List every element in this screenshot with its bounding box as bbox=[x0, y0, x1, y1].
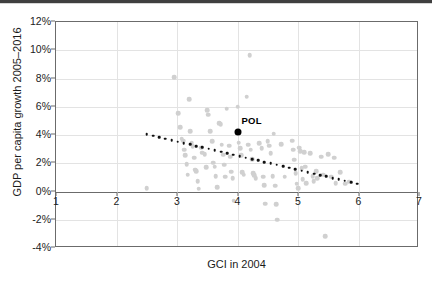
x-tick-label: 1 bbox=[53, 195, 59, 207]
trendline-dot bbox=[356, 182, 359, 185]
scatter-point bbox=[194, 169, 199, 174]
gridline-horizontal bbox=[56, 220, 417, 221]
scatter-point bbox=[262, 183, 267, 188]
scatter-point bbox=[282, 174, 287, 179]
scatter-point bbox=[267, 143, 272, 148]
scatter-point bbox=[273, 184, 278, 189]
trendline-dot bbox=[245, 156, 248, 159]
scatter-point bbox=[206, 112, 211, 117]
scatter-point bbox=[241, 172, 246, 177]
trendline-dot bbox=[263, 161, 266, 164]
trendline-dot bbox=[275, 164, 278, 167]
y-tick-label: -4% bbox=[32, 241, 51, 253]
highlight-label-pol: POL bbox=[242, 115, 262, 126]
scatter-point bbox=[204, 165, 209, 170]
scatter-point bbox=[222, 162, 227, 167]
x-tick-label: 7 bbox=[416, 195, 422, 207]
trendline-dot bbox=[325, 175, 328, 178]
scatter-point bbox=[182, 148, 187, 153]
scatter-point bbox=[236, 140, 241, 145]
scatter-point bbox=[238, 146, 243, 151]
trendline-dot bbox=[170, 139, 173, 142]
y-tick-label: 6% bbox=[36, 100, 51, 112]
scatter-point bbox=[203, 152, 208, 157]
y-tick-label: 2% bbox=[36, 156, 51, 168]
scatter-point bbox=[218, 122, 223, 127]
scatter-point bbox=[268, 151, 273, 156]
scatter-point bbox=[186, 172, 191, 177]
scatter-point bbox=[308, 151, 313, 156]
scatter-point bbox=[144, 186, 149, 191]
x-tick-label: 4 bbox=[235, 195, 241, 207]
scatter-point bbox=[192, 155, 197, 160]
x-tick-mark bbox=[116, 192, 117, 196]
scatter-point bbox=[187, 97, 192, 102]
trendline-dot bbox=[300, 169, 303, 172]
scatter-point bbox=[227, 143, 232, 148]
scatter-point bbox=[315, 176, 320, 181]
scatter-point bbox=[319, 155, 324, 160]
trendline-dot bbox=[288, 166, 291, 169]
trendline-dot bbox=[183, 142, 186, 145]
gridline-horizontal bbox=[56, 50, 417, 51]
scatter-point bbox=[296, 186, 301, 191]
plot-area: POL1234567 bbox=[55, 21, 418, 247]
x-axis-label: GCI in 2004 bbox=[55, 258, 418, 270]
trendline-dot bbox=[220, 150, 223, 153]
scatter-point bbox=[172, 75, 177, 80]
trendline-dot bbox=[238, 155, 241, 158]
trendline-dot bbox=[282, 165, 285, 168]
y-tick-label: 0% bbox=[36, 185, 51, 197]
scatter-point bbox=[326, 152, 331, 157]
trendline-dot bbox=[152, 134, 155, 137]
page-scan-band-shadow bbox=[0, 3, 432, 4]
scatter-point bbox=[229, 169, 234, 174]
trendline-dot bbox=[207, 148, 210, 151]
gridline-vertical bbox=[359, 22, 360, 246]
scatter-point bbox=[259, 146, 264, 151]
trendline-dot bbox=[294, 168, 297, 171]
scatter-point bbox=[303, 164, 308, 169]
scatter-point bbox=[257, 141, 262, 146]
scatter-point bbox=[195, 179, 200, 184]
x-tick-label: 6 bbox=[356, 195, 362, 207]
scatter-point bbox=[249, 148, 254, 153]
scatter-point bbox=[213, 174, 218, 179]
scatter-point bbox=[223, 174, 228, 179]
scatter-point bbox=[235, 104, 240, 109]
x-tick-label: 2 bbox=[114, 195, 120, 207]
scatter-point bbox=[224, 107, 229, 112]
scatter-point bbox=[183, 153, 188, 158]
highlight-point-pol bbox=[234, 129, 241, 136]
x-tick-mark bbox=[56, 192, 57, 196]
scatter-point bbox=[323, 234, 328, 239]
trendline-dot bbox=[158, 136, 161, 139]
x-tick-mark bbox=[298, 192, 299, 196]
trendline-dot bbox=[189, 143, 192, 146]
trendline-dot bbox=[232, 153, 235, 156]
gridline-vertical bbox=[177, 22, 178, 246]
scatter-point bbox=[244, 95, 249, 100]
scatter-point bbox=[333, 181, 338, 186]
x-tick-mark bbox=[419, 192, 420, 196]
y-tick-label: -2% bbox=[32, 213, 51, 225]
trendline-dot bbox=[251, 158, 254, 161]
x-tick-mark bbox=[177, 192, 178, 196]
y-tick-label: 10% bbox=[30, 43, 51, 55]
y-tick-label: 4% bbox=[36, 128, 51, 140]
scatter-point bbox=[261, 174, 266, 179]
trendline-dot bbox=[344, 180, 347, 183]
trendline-dot bbox=[319, 174, 322, 177]
x-tick-label: 3 bbox=[174, 195, 180, 207]
scatter-point bbox=[178, 125, 183, 130]
scatter-point bbox=[208, 129, 213, 134]
scatter-point bbox=[215, 185, 220, 190]
scatter-point bbox=[253, 176, 258, 181]
trendline-dot bbox=[214, 149, 217, 152]
y-tick-label: 12% bbox=[30, 15, 51, 27]
gridline-vertical bbox=[117, 22, 118, 246]
scatter-point bbox=[184, 162, 189, 167]
scatter-point bbox=[332, 155, 337, 160]
x-tick-label: 5 bbox=[295, 195, 301, 207]
y-tick-label: 8% bbox=[36, 72, 51, 84]
